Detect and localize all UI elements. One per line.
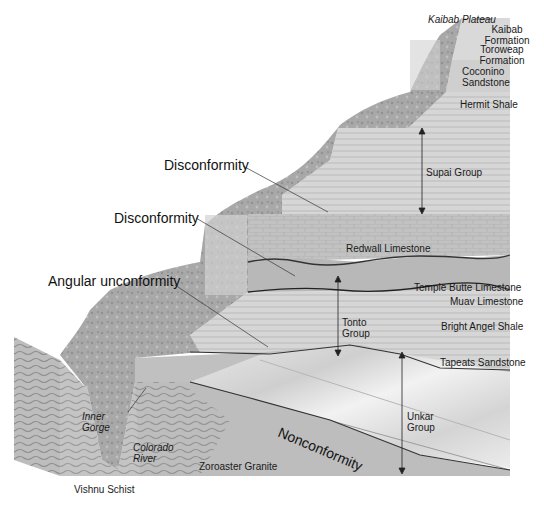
label-colorado-river-line1: Colorado (133, 442, 174, 453)
label-hermit-shale: Hermit Shale (460, 99, 518, 110)
label-kaibab-formation: Kaibab Formation (482, 24, 532, 46)
label-tonto-line1: Tonto (342, 317, 370, 328)
label-supai-group: Supai Group (426, 167, 482, 178)
label-tapeats-sandstone: Tapeats Sandstone (440, 357, 526, 368)
label-temple-butte-limestone: Temple Butte Limestone (414, 282, 521, 293)
redwall-layer (248, 214, 510, 262)
label-coconino-line2: Sandstone (462, 77, 510, 88)
label-colorado-river-line2: River (133, 453, 174, 464)
label-unkar-line2: Group (407, 422, 435, 433)
label-toroweap-formation: Toroweap Formation (474, 44, 530, 66)
label-unkar-group: Unkar Group (407, 411, 435, 433)
label-toroweap-line2: Formation (474, 55, 530, 66)
label-disconformity-lower: Disconformity (114, 210, 199, 226)
label-redwall-limestone: Redwall Limestone (346, 243, 431, 254)
label-angular-unconformity: Angular unconformity (48, 273, 180, 289)
label-inner-gorge: Inner Gorge (82, 411, 110, 433)
label-coconino-line1: Coconino (462, 66, 510, 77)
label-colorado-river: Colorado River (133, 442, 174, 464)
label-toroweap-line1: Toroweap (474, 44, 530, 55)
label-coconino-sandstone: Coconino Sandstone (462, 66, 510, 88)
label-disconformity-upper: Disconformity (164, 157, 249, 173)
label-bright-angel-shale: Bright Angel Shale (441, 321, 523, 332)
label-tonto-line2: Group (342, 328, 370, 339)
label-kaibab-line1: Kaibab (482, 24, 532, 35)
label-tonto-group: Tonto Group (342, 317, 370, 339)
grand-canyon-cross-section: Kaibab Plateau Kaibab Formation Toroweap… (0, 0, 544, 506)
label-inner-gorge-line2: Gorge (82, 422, 110, 433)
label-vishnu-schist: Vishnu Schist (74, 484, 134, 495)
label-zoroaster-granite: Zoroaster Granite (199, 461, 277, 472)
label-inner-gorge-line1: Inner (82, 411, 110, 422)
label-muav-limestone: Muav Limestone (450, 296, 523, 307)
label-unkar-line1: Unkar (407, 411, 435, 422)
vishnu-block (14, 337, 60, 476)
